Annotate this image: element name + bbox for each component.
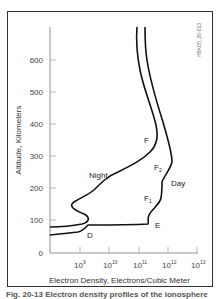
d-layer-label: D [87, 231, 93, 240]
x-tick-1e11: 1011 [133, 259, 147, 270]
y-tick-0: 0 [39, 249, 44, 258]
y-tick-100: 100 [30, 216, 44, 225]
x-tick-labels: 109 1010 1011 1012 1013 [74, 259, 206, 270]
x-tick-1e13: 1013 [191, 259, 206, 270]
y-tick-300: 300 [30, 152, 44, 161]
day-label: Day [171, 179, 185, 188]
y-ticks [50, 60, 56, 220]
e-layer-label: E [155, 221, 160, 230]
y-tick-labels: 600 500 400 300 200 100 0 [30, 56, 44, 258]
night-label: Night [89, 171, 108, 180]
y-tick-200: 200 [30, 184, 44, 193]
f1-layer-label: F1 [144, 194, 152, 204]
day-curve [50, 27, 172, 235]
y-axis-title: Altitude, Kilometers [14, 106, 23, 175]
x-axis-title: Electron Density, Electrons/Cubic Meter [49, 276, 190, 285]
chart-svg: 600 500 400 300 200 100 0 109 1010 1011 … [0, 0, 220, 299]
y-tick-400: 400 [30, 120, 44, 129]
night-curve [50, 27, 157, 227]
figure-id-label: HBK05_20-013 [196, 23, 202, 57]
y-tick-600: 600 [30, 56, 44, 65]
x-tick-1e9: 109 [74, 259, 86, 270]
x-ticks [80, 247, 197, 253]
x-tick-1e12: 1012 [162, 259, 177, 270]
f2-layer-label: F2 [154, 163, 162, 173]
figure-caption: Fig. 20-13 Electron density profiles of … [6, 290, 208, 299]
f-layer-label: F [144, 136, 149, 145]
x-tick-1e10: 1010 [103, 259, 118, 270]
y-tick-500: 500 [30, 88, 44, 97]
